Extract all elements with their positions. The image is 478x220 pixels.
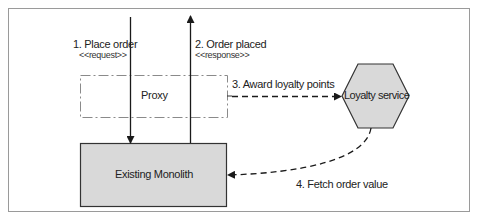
edge-label-place-order: 1. Place order	[73, 38, 137, 50]
edge-stereotype-response: <<response>>	[195, 50, 249, 60]
loyalty-service-label: Loyalty service	[344, 89, 408, 101]
edge-label-order-placed: 2. Order placed	[195, 38, 266, 50]
monolith-label: Existing Monolith	[81, 168, 227, 180]
edge-label-fetch-order-value: 4. Fetch order value	[296, 178, 388, 190]
edge-label-award-loyalty: 3. Award loyalty points	[232, 78, 334, 90]
diagram-canvas	[0, 0, 478, 220]
proxy-label: Proxy	[141, 89, 168, 101]
edge-stereotype-request: <<request>>	[79, 50, 127, 60]
fetch-order-value-arrow	[228, 128, 371, 175]
